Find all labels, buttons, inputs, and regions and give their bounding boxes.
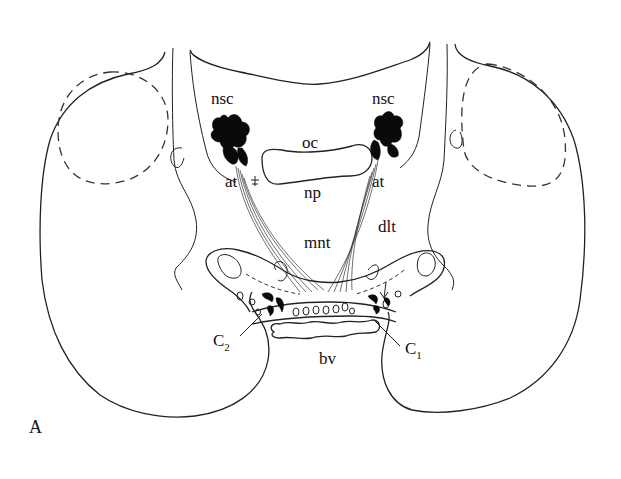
label-c1: C1 <box>405 339 422 361</box>
right-small-loop <box>450 130 462 148</box>
label-bv: bv <box>319 349 337 368</box>
blood-vessel <box>271 320 379 339</box>
right-dashed-region <box>462 64 566 186</box>
left-at-marker <box>251 176 259 186</box>
c2-leader <box>240 314 262 336</box>
label-mnt: mnt <box>304 233 331 252</box>
left-scn-nucleus <box>211 115 249 166</box>
label-at-left: at <box>225 172 238 191</box>
median-eminence <box>206 249 445 324</box>
label-at-right: at <box>372 172 385 191</box>
section-drawing: nsc nsc oc at at np mnt dlt C2 C1 bv <box>0 0 621 479</box>
panel-label: A <box>29 417 42 438</box>
label-nsc-left: nsc <box>211 89 234 108</box>
label-oc: oc <box>302 133 319 152</box>
label-c2: C2 <box>213 331 230 353</box>
third-ventricle-top <box>190 42 430 84</box>
right-scn-nucleus <box>371 112 403 161</box>
label-dlt: dlt <box>378 217 396 236</box>
left-small-loop <box>171 148 184 168</box>
anatomical-figure: nsc nsc oc at at np mnt dlt C2 C1 bv <box>0 0 621 479</box>
right-medial-boundary <box>428 44 454 290</box>
c1-leader <box>374 320 400 346</box>
label-nsc-right: nsc <box>372 89 395 108</box>
left-dashed-region <box>58 72 168 184</box>
left-lobe-outline <box>40 52 269 417</box>
dlt-arrow <box>380 282 388 298</box>
label-np: np <box>304 183 321 202</box>
scn-compartment-right <box>400 44 430 168</box>
right-fiber-tract <box>328 160 378 292</box>
